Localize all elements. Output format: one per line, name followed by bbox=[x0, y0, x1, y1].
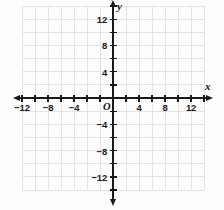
y-tick-label-12: 12 bbox=[97, 14, 107, 25]
x-tick-label-12: 12 bbox=[186, 102, 196, 113]
arrow-down-icon bbox=[110, 199, 116, 206]
x-tick-label-8: 8 bbox=[162, 102, 167, 113]
coordinate-plane-figure: −12 −8 −4 4 8 12 12 8 4 −4 −8 −12 O x y bbox=[0, 0, 224, 210]
x-tick-label-neg4: −4 bbox=[69, 102, 79, 113]
y-tick-label-8: 8 bbox=[102, 40, 107, 51]
arrow-right-icon bbox=[206, 95, 213, 101]
y-tick-label-neg8: −8 bbox=[97, 145, 107, 156]
origin-label: O bbox=[103, 101, 111, 112]
y-tick-label-neg4: −4 bbox=[97, 119, 107, 130]
x-tick-label-neg12: −12 bbox=[14, 102, 30, 113]
x-tick-label-4: 4 bbox=[136, 102, 141, 113]
x-axis-label: x bbox=[205, 80, 211, 92]
x-tick-label-neg8: −8 bbox=[43, 102, 53, 113]
y-tick-label-neg12: −12 bbox=[91, 171, 107, 182]
y-axis-label: y bbox=[117, 0, 122, 12]
y-tick-label-4: 4 bbox=[102, 66, 107, 77]
arrow-left-icon bbox=[13, 95, 20, 101]
